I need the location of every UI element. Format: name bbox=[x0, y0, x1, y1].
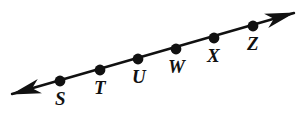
line-diagram-svg bbox=[0, 0, 307, 127]
point-label-t: T bbox=[94, 78, 106, 97]
point-dot-s bbox=[55, 76, 66, 87]
point-label-x: X bbox=[207, 46, 220, 65]
point-label-w: W bbox=[168, 57, 185, 76]
point-label-s: S bbox=[55, 89, 66, 108]
point-label-z: Z bbox=[247, 34, 259, 53]
geometry-figure: STUWXZ bbox=[0, 0, 307, 127]
point-label-u: U bbox=[132, 67, 146, 86]
point-dot-x bbox=[209, 33, 220, 44]
point-dot-u bbox=[133, 54, 144, 65]
point-dot-w bbox=[171, 44, 182, 55]
point-dot-z bbox=[248, 21, 259, 32]
point-dot-t bbox=[95, 65, 106, 76]
